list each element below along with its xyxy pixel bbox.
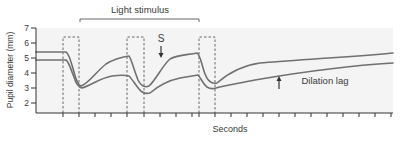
y-tick-labels: 7 6 5 4 3 2 bbox=[24, 23, 29, 108]
x-axis bbox=[36, 113, 393, 117]
y-tick-4: 4 bbox=[24, 68, 29, 78]
y-tick-6: 6 bbox=[24, 38, 29, 48]
plot-area bbox=[36, 28, 393, 113]
s-marker-label: S bbox=[158, 33, 165, 44]
y-tick-7: 7 bbox=[24, 23, 29, 33]
y-axis bbox=[31, 28, 36, 113]
x-axis-label: Seconds bbox=[212, 124, 248, 134]
y-tick-5: 5 bbox=[24, 53, 29, 63]
dilation-lag-label: Dilation lag bbox=[302, 75, 349, 86]
y-axis-label: Pupil diameter (mm) bbox=[5, 32, 15, 109]
pupil-diameter-chart: Light stimulus S Dilation lag 7 6 5 4 bbox=[0, 0, 400, 144]
y-tick-3: 3 bbox=[24, 83, 29, 93]
light-stimulus-label: Light stimulus bbox=[111, 4, 169, 15]
y-tick-2: 2 bbox=[24, 98, 29, 108]
light-stimulus-bracket bbox=[80, 19, 199, 22]
